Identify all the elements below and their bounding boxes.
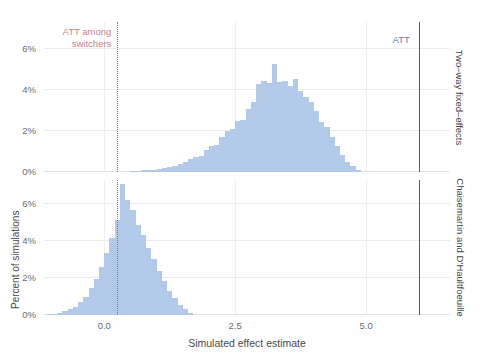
y-axis-tick-label: 4% [8, 85, 36, 95]
chart-root: Percent of simulations Simulated effect … [0, 0, 494, 363]
panel-two-way-fixed-effects: ATT amongswitchersATT [44, 22, 450, 172]
y-axis-tick-label: 2% [8, 273, 36, 283]
y-axis-tick-label: 0% [8, 167, 36, 177]
histogram-bar [356, 170, 361, 172]
reference-line-att-among-switchers [117, 180, 118, 315]
x-axis-tick-label: 0.0 [84, 321, 124, 331]
gridline-vertical [235, 180, 236, 315]
annotation-line-1: ATT among [9, 26, 111, 38]
y-axis-tick-label: 2% [8, 126, 36, 136]
x-axis-tick-label: 5.0 [346, 321, 386, 331]
panel-strip-two-way-fixed-effects: Two–way fixed–effects [452, 22, 468, 172]
x-axis-label: Simulated effect estimate [44, 337, 450, 349]
reference-line-att [419, 180, 421, 315]
y-axis-tick-label: 0% [8, 310, 36, 320]
panel-strip-label: Two–way fixed–effects [455, 49, 466, 144]
y-axis-tick-label: 4% [8, 236, 36, 246]
panel-strip-chaisemartin-dhaultfoeuille: Chaisemartin and D’Haultfoeuille [452, 180, 468, 315]
plot-area [44, 180, 450, 315]
y-axis-label: Percent of simulations [10, 211, 21, 309]
gridline-vertical [366, 22, 367, 172]
gridline-vertical [366, 180, 367, 315]
x-axis-tick-label: 2.5 [215, 321, 255, 331]
panel-strip-label: Chaisemartin and D’Haultfoeuille [455, 178, 466, 316]
y-axis-tick-label: 6% [8, 44, 36, 54]
y-axis-tick-label: 6% [8, 199, 36, 209]
annotation-att-label: ATT [393, 34, 410, 45]
reference-line-att-among-switchers [117, 22, 118, 172]
histogram-bar [188, 313, 193, 315]
panel-chaisemartin-dhaultfoeuille [44, 180, 450, 315]
reference-line-att [419, 22, 421, 172]
